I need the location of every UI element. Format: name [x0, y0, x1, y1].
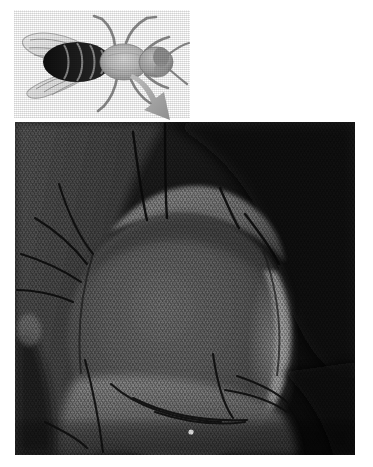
- figure-caption: [0, 458, 373, 467]
- arrow-shape: [130, 74, 170, 120]
- micrograph-svg: [15, 122, 355, 455]
- pointer-arrow: [130, 72, 190, 122]
- bright-speck: [188, 429, 193, 434]
- bottom-shadow: [15, 422, 355, 455]
- figure-root: [0, 0, 373, 467]
- arrow-svg: [130, 72, 190, 122]
- left-light-patch: [17, 314, 41, 346]
- sem-micrograph-panel: [15, 122, 355, 455]
